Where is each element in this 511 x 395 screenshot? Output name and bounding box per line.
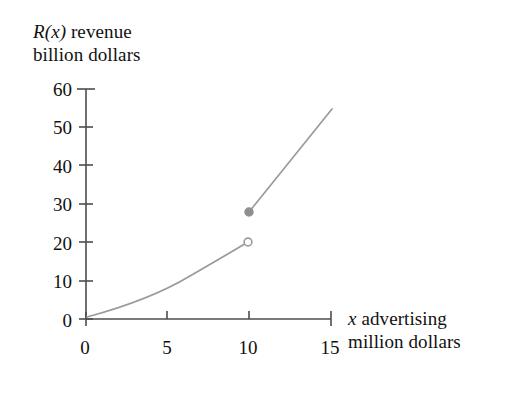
plot-area [0, 0, 511, 395]
open-endpoint-marker [244, 238, 252, 246]
axes-group [86, 89, 331, 319]
series-piece-1-curve [87, 242, 248, 317]
revenue-chart: R(x) revenue billion dollars x advertisi… [0, 0, 511, 395]
data-series-group [87, 109, 332, 317]
closed-endpoint-marker [245, 208, 253, 216]
series-piece-2-line [249, 109, 332, 212]
data-markers-group [244, 208, 253, 246]
